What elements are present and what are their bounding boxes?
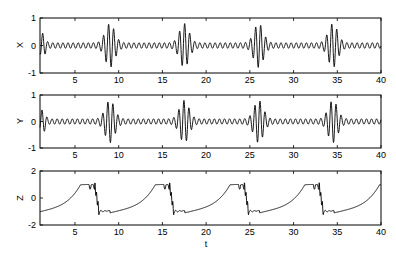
y-tick-label: 1 xyxy=(31,13,36,23)
x-tick-label: 35 xyxy=(332,150,342,160)
panel-x: 510152025303540-101 X xyxy=(15,13,386,85)
y-tick-label: 0 xyxy=(31,117,36,127)
x-tick-label: 40 xyxy=(376,150,386,160)
y-tick-label: -2 xyxy=(28,220,36,230)
x-tick-label: 30 xyxy=(289,150,299,160)
x-tick-label: 20 xyxy=(201,75,211,85)
x-tick-label: 30 xyxy=(289,75,299,85)
ylabel-z: Z xyxy=(15,195,25,201)
axes-box-x xyxy=(40,18,381,73)
x-tick-label: 5 xyxy=(72,227,77,237)
axes-box-z xyxy=(40,171,381,225)
x-tick-label: 10 xyxy=(114,150,124,160)
x-tick-label: 40 xyxy=(376,75,386,85)
x-tick-label: 15 xyxy=(157,150,167,160)
x-tick-label: 25 xyxy=(245,75,255,85)
y-tick-label: 0 xyxy=(31,193,36,203)
ylabel-x: X xyxy=(15,42,25,48)
x-tick-label: 40 xyxy=(376,227,386,237)
y-tick-label: -1 xyxy=(28,68,36,78)
x-tick-label: 10 xyxy=(114,227,124,237)
x-tick-label: 35 xyxy=(332,75,342,85)
y-tick-label: -1 xyxy=(28,143,36,153)
panel-z: 510152025303540-202 Z t xyxy=(15,166,386,249)
xlabel-t: t xyxy=(205,239,208,249)
x-tick-label: 20 xyxy=(201,227,211,237)
y-tick-label: 1 xyxy=(31,90,36,100)
y-tick-label: 0 xyxy=(31,41,36,51)
x-tick-label: 30 xyxy=(289,227,299,237)
chart-figure: 510152025303540-101 X 510152025303540-10… xyxy=(0,0,396,257)
x-tick-label: 15 xyxy=(157,227,167,237)
y-tick-label: 2 xyxy=(31,166,36,176)
x-tick-label: 10 xyxy=(114,75,124,85)
x-tick-label: 20 xyxy=(201,150,211,160)
x-tick-label: 5 xyxy=(72,150,77,160)
panel-y: 510152025303540-101 Y xyxy=(15,90,386,160)
ylabel-y: Y xyxy=(15,118,25,124)
x-tick-label: 15 xyxy=(157,75,167,85)
x-tick-label: 5 xyxy=(72,75,77,85)
x-tick-label: 25 xyxy=(245,150,255,160)
x-tick-label: 25 xyxy=(245,227,255,237)
x-tick-label: 35 xyxy=(332,227,342,237)
